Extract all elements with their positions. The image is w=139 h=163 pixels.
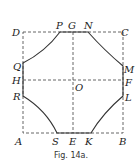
label-l: L	[124, 92, 132, 103]
figure-diagram: D P G N C Q H R O M F L A S E K B Fig. 1…	[0, 0, 139, 163]
label-c: C	[121, 27, 129, 38]
label-b: B	[118, 136, 126, 147]
label-d: D	[11, 27, 20, 38]
label-p: P	[55, 20, 63, 31]
label-o: O	[75, 82, 83, 93]
label-g: G	[68, 20, 76, 31]
label-q: Q	[13, 61, 21, 72]
label-m: M	[123, 64, 135, 75]
label-s: S	[52, 136, 59, 147]
label-k: K	[84, 136, 93, 147]
label-r: R	[12, 91, 21, 102]
label-e: E	[68, 136, 77, 147]
label-h: H	[11, 75, 21, 86]
label-f: F	[124, 77, 133, 88]
label-a: A	[14, 136, 22, 147]
label-n: N	[83, 20, 94, 31]
figure-caption: Fig. 14a.	[54, 151, 88, 160]
